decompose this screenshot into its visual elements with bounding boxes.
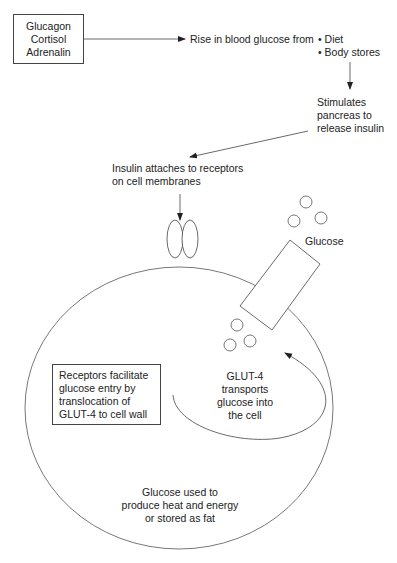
diagram-canvas: [0, 0, 397, 563]
insulin-label: Insulin attaches to receptors on cell me…: [112, 162, 243, 188]
arrow-pancreas-to-insulin: [190, 131, 308, 157]
glucose-molecules-inside-icon: [224, 319, 256, 351]
hormone-cortisol: Cortisol: [14, 33, 83, 46]
receptors-box: Receptors facilitate glucose entry by tr…: [52, 364, 161, 425]
rise-label: Rise in blood glucose from: [190, 33, 314, 46]
hormone-adrenalin: Adrenalin: [14, 46, 83, 59]
glut4-transporter-icon: [240, 240, 320, 330]
insulin-receptor-icon: [167, 220, 198, 258]
source-diet: • Diet: [318, 33, 380, 46]
glucose-molecules-outside-icon: [288, 196, 327, 227]
hormone-box: Glucagon Cortisol Adrenalin: [13, 14, 84, 64]
sources-list: • Diet • Body stores: [318, 33, 380, 59]
glut4-label: GLUT-4 transports glucose into the cell: [205, 370, 285, 422]
outcome-label: Glucose used to produce heat and energy …: [115, 486, 245, 525]
hormone-glucagon: Glucagon: [14, 20, 83, 33]
glucose-label: Glucose: [305, 235, 344, 248]
source-body-stores: • Body stores: [318, 46, 380, 59]
pancreas-label: Stimulates pancreas to release insulin: [317, 96, 384, 135]
